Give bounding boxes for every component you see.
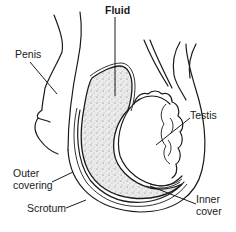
hydrocele-diagram: Fluid Penis Testis Outer covering Scrotu… [0, 0, 236, 232]
label-outer-covering-line2: covering [13, 179, 53, 191]
outer-covering-leader [52, 172, 73, 182]
label-testis: Testis [190, 109, 217, 121]
label-scrotum: Scrotum [27, 202, 66, 214]
label-outer-covering-line1: Outer [13, 167, 39, 179]
label-inner-cover-line2: cover [196, 205, 222, 217]
label-penis: Penis [15, 48, 41, 60]
label-fluid: Fluid [105, 4, 130, 16]
scrotum-leader [66, 200, 86, 208]
penis-leader [30, 62, 57, 94]
label-inner-cover-line1: Inner [196, 193, 220, 205]
